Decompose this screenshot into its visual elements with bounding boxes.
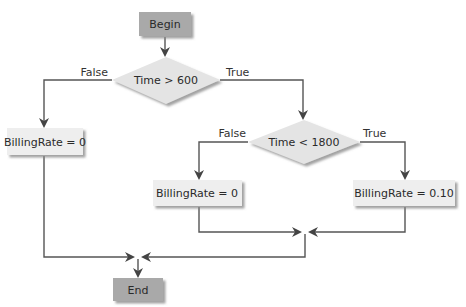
decision1-false-label: False (80, 66, 108, 79)
decision2-node: Time < 1800 (248, 120, 360, 164)
edge-junction2-junction1 (143, 234, 305, 257)
begin-node: Begin (139, 12, 191, 36)
edge-mid-junction (199, 207, 300, 232)
billing-rate-ten-label: BillingRate = 0.10 (354, 187, 454, 200)
billing-rate-zero-mid-label: BillingRate = 0 (156, 187, 238, 200)
billing-rate-zero-mid-node: BillingRate = 0 (153, 180, 242, 206)
edge-left-junction (44, 156, 133, 257)
end-node: End (113, 278, 163, 301)
begin-label: Begin (149, 18, 180, 31)
billing-rate-zero-left-node: BillingRate = 0 (4, 128, 86, 155)
decision1-label: Time > 600 (133, 74, 198, 87)
decision1-node: Time > 600 (112, 57, 220, 104)
edge-decision1-false (44, 80, 112, 126)
decision1-true-label: True (225, 66, 250, 79)
edge-decision1-true (220, 80, 303, 118)
flowchart: Begin Time > 600 False True BillingRate … (0, 0, 466, 307)
edge-right-junction (310, 207, 405, 232)
end-label: End (128, 284, 149, 297)
decision2-false-label: False (218, 127, 246, 140)
decision2-true-label: True (362, 127, 387, 140)
edge-decision2-true (360, 142, 405, 178)
decision2-label: Time < 1800 (267, 136, 339, 149)
billing-rate-ten-node: BillingRate = 0.10 (353, 180, 455, 206)
edge-decision2-false (199, 142, 248, 178)
billing-rate-zero-left-label: BillingRate = 0 (4, 136, 86, 149)
